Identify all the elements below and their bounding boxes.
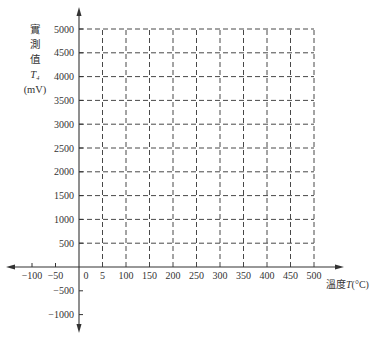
y-tick-label: 1000 <box>54 214 74 225</box>
y-axis-title-variable: T₄ <box>18 67 52 82</box>
y-tick-label: 500 <box>59 238 74 249</box>
x-tick-label: 250 <box>189 270 204 281</box>
y-tick-label: 3500 <box>54 95 74 106</box>
x-tick-label: 0 <box>84 270 89 281</box>
x-tick-label: −50 <box>48 270 64 281</box>
x-tick-label: 500 <box>307 270 322 281</box>
y-tick-label: 2000 <box>54 166 74 177</box>
y-axis-title-unit: (mV) <box>18 82 52 97</box>
y-axis-title-line-1: 實 <box>18 22 52 37</box>
x-tick-label: 450 <box>283 270 298 281</box>
y-axis-title-line-3: 值 <box>18 52 52 67</box>
x-tick-label: 200 <box>166 270 181 281</box>
x-axis-right-arrow-icon <box>335 265 344 270</box>
x-tick-label: 300 <box>213 270 228 281</box>
y-axis-up-arrow-icon <box>77 7 82 16</box>
y-tick-label: 5000 <box>54 24 74 35</box>
grid-lines <box>79 29 314 267</box>
y-tick-label: 4500 <box>54 47 74 58</box>
chart-canvas: −100−5005100150200250300350400450500 −10… <box>0 0 382 342</box>
y-tick-label: −1000 <box>48 309 74 320</box>
x-axis-title: 溫度T(°C) <box>326 276 369 291</box>
x-axis-ticks: −100−5005100150200250300350400450500 <box>22 263 322 281</box>
y-tick-label: 4000 <box>54 71 74 82</box>
x-tick-label: 5 <box>100 270 105 281</box>
x-tick-label: 100 <box>119 270 134 281</box>
x-axis-title-unit: (°C) <box>352 279 369 290</box>
y-tick-label: 2500 <box>54 143 74 154</box>
y-axis-title: 實 測 值 T₄ (mV) <box>18 22 52 97</box>
y-tick-label: 1500 <box>54 190 74 201</box>
y-tick-label: −500 <box>53 285 74 296</box>
x-axis-title-prefix: 溫度 <box>326 279 346 290</box>
x-axis-left-arrow-icon <box>6 265 15 270</box>
x-tick-label: 150 <box>142 270 157 281</box>
x-tick-label: −100 <box>22 270 43 281</box>
x-tick-label: 400 <box>260 270 275 281</box>
x-tick-label: 350 <box>236 270 251 281</box>
y-axis-down-arrow-icon <box>77 324 82 333</box>
y-axis-title-line-2: 測 <box>18 37 52 52</box>
y-tick-label: 3000 <box>54 119 74 130</box>
